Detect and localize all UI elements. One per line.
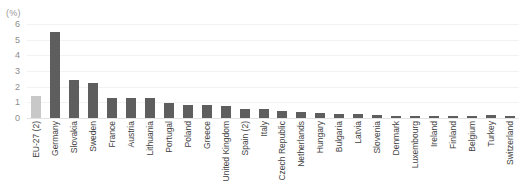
category-slot: Lithuania	[141, 121, 160, 191]
bar-slot	[27, 24, 46, 118]
y-axis-tick: 2	[15, 82, 20, 91]
category-slot: Germany	[46, 121, 65, 191]
bar-slot	[197, 24, 216, 118]
category-label: Portugal	[165, 121, 174, 153]
bar	[107, 98, 117, 118]
category-label: Denmark	[392, 121, 401, 155]
category-label: Hungary	[316, 121, 325, 153]
bar	[467, 116, 477, 118]
category-label: Italy	[259, 121, 268, 137]
category-slot: Hungary	[311, 121, 330, 191]
bar	[353, 114, 363, 118]
category-label: Bulgaria	[335, 121, 344, 152]
bar-slot	[424, 24, 443, 118]
bar-slot	[254, 24, 273, 118]
x-axis-category-labels: EU-27 (2)GermanySlovakiaSwedenFranceAust…	[27, 121, 519, 191]
category-label: Finland	[449, 121, 458, 149]
category-slot: Sweden	[84, 121, 103, 191]
bar-slot	[65, 24, 84, 118]
category-label: United Kingdom	[221, 121, 230, 181]
category-label: Greece	[203, 121, 212, 149]
bar-slot	[46, 24, 65, 118]
category-slot: Slovakia	[65, 121, 84, 191]
category-slot: Slovenia	[368, 121, 387, 191]
category-label: Ireland	[430, 121, 439, 147]
bar	[259, 109, 269, 118]
plot-area	[27, 24, 519, 118]
bar	[372, 115, 382, 118]
bar-slot	[368, 24, 387, 118]
category-label: Germany	[51, 121, 60, 156]
bar-slot	[387, 24, 406, 118]
category-slot: Czech Republic	[273, 121, 292, 191]
bar	[429, 116, 439, 118]
bar-slot	[235, 24, 254, 118]
bar	[88, 83, 98, 118]
bar	[126, 98, 136, 118]
category-slot: Austria	[122, 121, 141, 191]
category-label: Czech Republic	[278, 121, 287, 181]
bar	[391, 116, 401, 118]
category-slot: Luxembourg	[405, 121, 424, 191]
category-slot: Poland	[178, 121, 197, 191]
bar	[202, 105, 212, 118]
category-slot: France	[103, 121, 122, 191]
category-slot: Netherlands	[292, 121, 311, 191]
bar-slot	[273, 24, 292, 118]
bar	[145, 98, 155, 118]
bar	[486, 115, 496, 118]
bar-slot	[349, 24, 368, 118]
bar	[164, 103, 174, 118]
category-label: France	[108, 121, 117, 147]
bar-slot	[122, 24, 141, 118]
bar	[50, 32, 60, 118]
bar	[410, 116, 420, 118]
bar	[315, 113, 325, 118]
category-slot: Belgium	[462, 121, 481, 191]
y-axis-tick-labels: 0123456	[0, 24, 24, 118]
bar-series	[27, 24, 519, 118]
category-label: Slovakia	[70, 121, 79, 153]
bar	[448, 116, 458, 118]
bar-slot	[405, 24, 424, 118]
category-label: Latvia	[354, 121, 363, 144]
bar	[69, 80, 79, 118]
bar	[334, 114, 344, 118]
category-slot: Ireland	[424, 121, 443, 191]
category-label: Netherlands	[297, 121, 306, 167]
y-axis-tick: 5	[15, 35, 20, 44]
bar	[183, 105, 193, 118]
category-label: EU-27 (2)	[32, 121, 41, 158]
category-slot: Greece	[197, 121, 216, 191]
y-axis-tick: 3	[15, 67, 20, 76]
bar-slot	[84, 24, 103, 118]
bar-slot	[103, 24, 122, 118]
bar-slot	[330, 24, 349, 118]
category-label: Turkey	[486, 121, 495, 147]
category-label: Switzerland	[505, 121, 514, 165]
bar-chart: (%) 0123456 EU-27 (2)GermanySlovakiaSwed…	[0, 0, 522, 192]
category-label: Poland	[184, 121, 193, 147]
category-label: Slovenia	[373, 121, 382, 154]
bar	[240, 109, 250, 118]
y-axis-unit-label: (%)	[6, 8, 21, 18]
category-slot: United Kingdom	[216, 121, 235, 191]
bar-slot	[141, 24, 160, 118]
bar-slot	[216, 24, 235, 118]
bar	[296, 112, 306, 118]
y-axis-tick: 0	[15, 114, 20, 123]
bar-slot	[159, 24, 178, 118]
category-slot: Latvia	[349, 121, 368, 191]
bar-slot	[443, 24, 462, 118]
bar	[277, 111, 287, 118]
category-slot: Spain (2)	[235, 121, 254, 191]
y-axis-tick: 4	[15, 51, 20, 60]
category-label: Lithuania	[146, 121, 155, 156]
bar-slot	[178, 24, 197, 118]
category-label: Sweden	[89, 121, 98, 152]
bar-slot	[311, 24, 330, 118]
category-slot: Portugal	[159, 121, 178, 191]
category-label: Luxembourg	[411, 121, 420, 168]
bar-slot	[462, 24, 481, 118]
category-slot: Switzerland	[500, 121, 519, 191]
